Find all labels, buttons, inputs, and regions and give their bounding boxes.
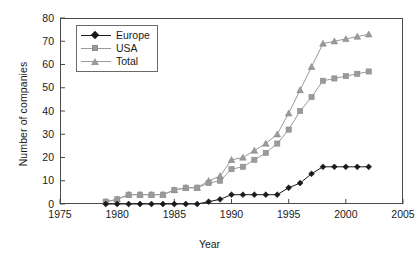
y-tick-label: 80 bbox=[16, 13, 54, 23]
triangle-marker-icon bbox=[91, 58, 99, 65]
figure: Number of companies Year 010203040506070… bbox=[0, 0, 419, 261]
y-tick-label: 60 bbox=[16, 59, 54, 69]
legend-item-total: Total bbox=[81, 55, 150, 68]
legend-symbol-europe bbox=[81, 30, 111, 41]
y-tick-label: 40 bbox=[16, 106, 54, 116]
x-tick-label: 1975 bbox=[37, 209, 83, 220]
x-tick-label: 1980 bbox=[94, 209, 140, 220]
chart-canvas bbox=[0, 0, 419, 261]
x-tick-label: 1990 bbox=[209, 209, 255, 220]
y-tick-label: 20 bbox=[16, 152, 54, 162]
legend-label-europe: Europe bbox=[116, 30, 150, 41]
x-tick-label: 2005 bbox=[380, 209, 419, 220]
x-tick-label: 2000 bbox=[323, 209, 369, 220]
y-tick-label: 10 bbox=[16, 175, 54, 185]
legend-item-usa: USA bbox=[81, 42, 150, 55]
series-usa bbox=[103, 69, 371, 204]
figure-caption bbox=[0, 252, 419, 261]
square-marker-icon bbox=[92, 45, 98, 51]
x-tick-label: 1985 bbox=[151, 209, 197, 220]
legend-symbol-usa bbox=[81, 43, 111, 54]
y-tick-label: 50 bbox=[16, 82, 54, 92]
x-tick-label: 1995 bbox=[266, 209, 312, 220]
legend-symbol-total bbox=[81, 56, 111, 67]
series-europe bbox=[103, 164, 372, 207]
legend-label-total: Total bbox=[116, 56, 138, 67]
legend-label-usa: USA bbox=[116, 43, 138, 54]
y-tick-label: 0 bbox=[16, 199, 54, 209]
y-tick-label: 70 bbox=[16, 36, 54, 46]
chart-legend: Europe USA Total bbox=[76, 25, 158, 72]
legend-item-europe: Europe bbox=[81, 29, 150, 42]
y-tick-label: 30 bbox=[16, 129, 54, 139]
diamond-marker-icon bbox=[91, 31, 99, 39]
